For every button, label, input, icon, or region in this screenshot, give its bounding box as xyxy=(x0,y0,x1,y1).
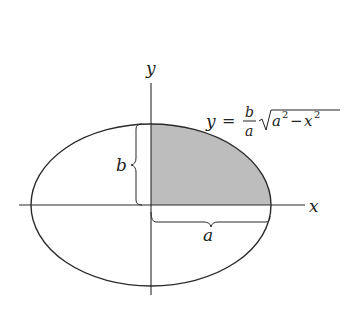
equation-equals: = xyxy=(222,111,235,130)
radicand-a: a xyxy=(272,112,281,130)
y-axis-label: y xyxy=(145,58,156,78)
radicand-x: x xyxy=(304,112,313,130)
fraction-numerator: b xyxy=(245,104,254,120)
a-label: a xyxy=(203,225,213,245)
radicand-x-exponent: 2 xyxy=(314,109,320,120)
curve-equation: y = b a a 2 − x 2 xyxy=(205,104,340,139)
equation-minus: − xyxy=(290,112,303,130)
x-axis-label: x xyxy=(309,196,319,216)
fraction-denominator: a xyxy=(245,123,253,139)
b-brace xyxy=(131,124,142,205)
equation-lhs: y xyxy=(205,111,216,131)
ellipse-diagram: y x b a y = b a a 2 − x 2 xyxy=(0,0,354,310)
radicand-a-exponent: 2 xyxy=(282,109,288,120)
b-label: b xyxy=(116,155,127,175)
